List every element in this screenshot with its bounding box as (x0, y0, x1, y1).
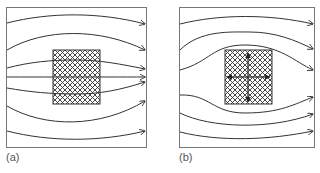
panel-b (180, 8, 315, 148)
panel-a-label: (a) (6, 151, 19, 163)
panel-a-field-lines (7, 15, 145, 139)
panel-b-label: (b) (179, 151, 192, 163)
figure-canvas (0, 0, 320, 173)
panel-a (7, 8, 147, 148)
